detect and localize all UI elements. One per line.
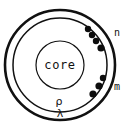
- atomic-shell-diagram: core n m ρ λ: [0, 0, 135, 127]
- electron-dot: [85, 26, 91, 32]
- electron-dot: [100, 75, 106, 81]
- n-group-label: n: [114, 27, 120, 38]
- electron-dot: [95, 82, 102, 89]
- electron-dot: [89, 32, 95, 38]
- electron-dot: [97, 44, 104, 51]
- electron-dot: [89, 90, 96, 97]
- core-label: core: [44, 58, 75, 72]
- lambda-shell-label: λ: [57, 107, 64, 120]
- electron-dot: [93, 38, 99, 44]
- shell-diagram-canvas: core n m ρ λ: [0, 0, 135, 127]
- m-group-label: m: [114, 81, 120, 92]
- electron-group-m: [89, 75, 106, 98]
